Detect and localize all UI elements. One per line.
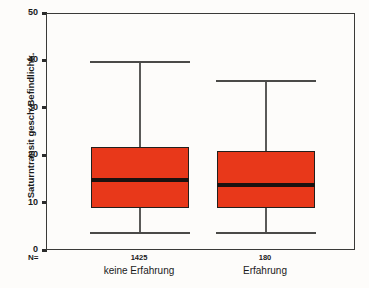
box-plot-group bbox=[47, 14, 354, 249]
y-tick-label: 50 bbox=[12, 8, 38, 17]
y-tick-label: 10 bbox=[12, 198, 38, 207]
boxplot-figure: Saturntransit gesch.Befindlichk. 0102030… bbox=[0, 0, 369, 288]
y-tick-label: 20 bbox=[12, 150, 38, 159]
upper-whisker-stem bbox=[265, 80, 266, 151]
median-line bbox=[217, 183, 315, 187]
lower-whisker-stem bbox=[265, 208, 266, 232]
box-iqr-rect bbox=[217, 151, 315, 208]
group-count-label: 180 bbox=[205, 253, 325, 262]
y-tick-label: 30 bbox=[12, 103, 38, 112]
n-equals-label: N= bbox=[28, 253, 38, 262]
group-category-label: Erfahrung bbox=[185, 265, 345, 276]
lower-whisker-cap bbox=[216, 232, 316, 234]
plot-area bbox=[46, 13, 355, 250]
group-count-label: 1425 bbox=[79, 253, 199, 262]
y-tick-label: 40 bbox=[12, 55, 38, 64]
upper-whisker-cap bbox=[216, 80, 316, 82]
